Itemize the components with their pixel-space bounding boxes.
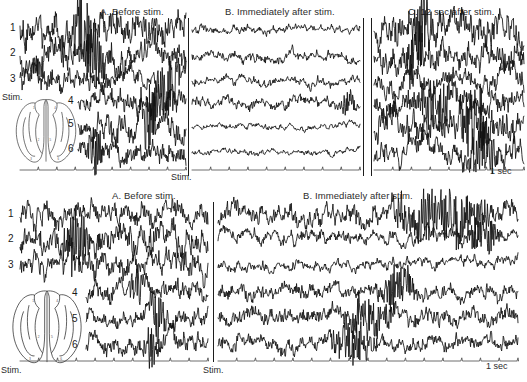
- trace-row1-B-ch6: [192, 146, 360, 157]
- trace-row1-C-ch1: [374, 0, 524, 66]
- eeg-figure: A. Before stim. B. Immediately after sti…: [0, 0, 527, 382]
- trace-row2-A-ch3: [20, 235, 208, 288]
- timebase-B: [218, 358, 519, 361]
- trace-row2-B-ch5: [218, 292, 518, 341]
- figure-caption-ghost: [0, 372, 527, 378]
- trace-row1-B-ch1: [192, 24, 360, 37]
- trace-row1-B-ch2: [192, 45, 360, 65]
- trace-row1-B-ch4: [192, 89, 360, 115]
- trace-row1-B-ch3: [192, 74, 360, 92]
- trace-row1-B-ch5: [192, 120, 360, 133]
- timebase-A: [20, 167, 187, 170]
- timebase-A: [20, 358, 209, 361]
- trace-row2-B-ch3: [218, 253, 518, 274]
- upper-traces: [0, 0, 527, 185]
- trace-row2-A-ch1: [20, 198, 208, 232]
- trace-row2-B-ch4: [218, 265, 518, 312]
- lower-traces: [0, 185, 527, 382]
- timebase-C: [374, 167, 525, 170]
- trace-row1-C-ch4: [374, 80, 524, 129]
- timebase-B: [192, 167, 361, 170]
